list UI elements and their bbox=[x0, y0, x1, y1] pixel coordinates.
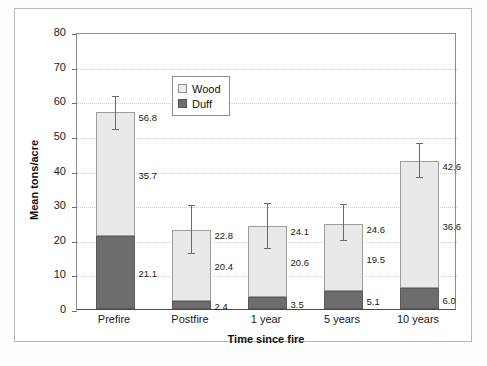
bar-duff-label: 6.0 bbox=[443, 295, 456, 306]
error-bar-cap-top bbox=[188, 205, 195, 206]
y-axis-tick bbox=[72, 103, 77, 104]
x-axis-tick-label: 1 year bbox=[226, 313, 306, 325]
error-bar-cap-bottom bbox=[264, 248, 271, 249]
y-axis-tick bbox=[72, 69, 77, 70]
y-axis-tick bbox=[72, 34, 77, 35]
legend-label-duff: Duff bbox=[192, 98, 212, 110]
bar-total-label: 24.6 bbox=[367, 224, 386, 235]
legend-item-wood: Wood bbox=[178, 81, 221, 96]
legend-swatch-wood bbox=[178, 84, 187, 93]
bar-segment-duff[interactable] bbox=[248, 297, 287, 309]
figure-canvas: Mean tons/acre 01020304050607080 56.835.… bbox=[0, 0, 487, 366]
error-bar bbox=[267, 203, 268, 248]
y-axis-tick bbox=[72, 138, 77, 139]
y-axis-tick-label: 20 bbox=[38, 235, 66, 246]
bar-wood-label: 20.4 bbox=[215, 261, 234, 272]
x-axis-tick-label: Prefire bbox=[74, 313, 154, 325]
error-bar bbox=[343, 204, 344, 239]
legend-item-duff: Duff bbox=[178, 96, 221, 111]
y-axis-tick bbox=[72, 311, 77, 312]
bar-total-label: 22.8 bbox=[215, 230, 234, 241]
x-axis-tick-label: 5 years bbox=[302, 313, 382, 325]
bar-duff-label: 21.1 bbox=[139, 268, 158, 279]
error-bar-cap-bottom bbox=[340, 240, 347, 241]
error-bar bbox=[115, 96, 116, 129]
bar-segment-duff[interactable] bbox=[400, 288, 439, 309]
bar-group[interactable] bbox=[400, 32, 439, 309]
bar-group[interactable] bbox=[324, 32, 363, 309]
bar-duff-label: 3.5 bbox=[291, 299, 304, 310]
bar-segment-wood[interactable] bbox=[96, 112, 135, 236]
error-bar-cap-bottom bbox=[112, 129, 119, 130]
bar-duff-label: 5.1 bbox=[367, 296, 380, 307]
y-axis-tick-label: 50 bbox=[38, 131, 66, 142]
y-axis-tick-label: 10 bbox=[38, 269, 66, 280]
error-bar bbox=[191, 205, 192, 253]
y-axis-tick bbox=[72, 207, 77, 208]
x-axis-tick-label: Postfire bbox=[150, 313, 230, 325]
plot-area: 56.835.721.122.820.42.424.120.63.524.619… bbox=[76, 33, 456, 310]
bar-wood-label: 20.6 bbox=[291, 257, 310, 268]
bar-wood-label: 19.5 bbox=[367, 254, 386, 265]
bar-segment-duff[interactable] bbox=[324, 291, 363, 309]
error-bar-cap-top bbox=[112, 96, 119, 97]
y-axis-tick bbox=[72, 276, 77, 277]
bar-group[interactable] bbox=[172, 32, 211, 309]
legend-swatch-duff bbox=[178, 99, 187, 108]
error-bar bbox=[419, 143, 420, 178]
y-axis-tick bbox=[72, 242, 77, 243]
x-axis-tick-label: 10 years bbox=[378, 313, 458, 325]
bar-wood-label: 35.7 bbox=[139, 170, 158, 181]
y-axis-tick-label: 30 bbox=[38, 200, 66, 211]
bar-duff-label: 2.4 bbox=[215, 301, 228, 312]
y-axis-tick-label: 60 bbox=[38, 96, 66, 107]
chart-legend: Wood Duff bbox=[172, 76, 230, 116]
error-bar-cap-bottom bbox=[188, 253, 195, 254]
y-axis-tick bbox=[72, 173, 77, 174]
error-bar-cap-top bbox=[416, 143, 423, 144]
y-axis-tick-label: 0 bbox=[38, 304, 66, 315]
x-axis-title: Time since fire bbox=[76, 333, 456, 345]
y-axis-tick-label: 80 bbox=[38, 27, 66, 38]
bar-total-label: 56.8 bbox=[139, 112, 158, 123]
y-axis-tick-label: 40 bbox=[38, 166, 66, 177]
bar-total-label: 24.1 bbox=[291, 226, 310, 237]
bar-group[interactable] bbox=[96, 32, 135, 309]
bar-group[interactable] bbox=[248, 32, 287, 309]
error-bar-cap-bottom bbox=[416, 177, 423, 178]
bar-segment-duff[interactable] bbox=[96, 236, 135, 309]
error-bar-cap-top bbox=[264, 203, 271, 204]
bar-segment-duff[interactable] bbox=[172, 301, 211, 309]
bar-total-label: 42.6 bbox=[443, 161, 462, 172]
legend-label-wood: Wood bbox=[192, 83, 221, 95]
error-bar-cap-top bbox=[340, 204, 347, 205]
bar-wood-label: 36.6 bbox=[443, 221, 462, 232]
bar-segment-wood[interactable] bbox=[400, 161, 439, 288]
y-axis-tick-label: 70 bbox=[38, 62, 66, 73]
